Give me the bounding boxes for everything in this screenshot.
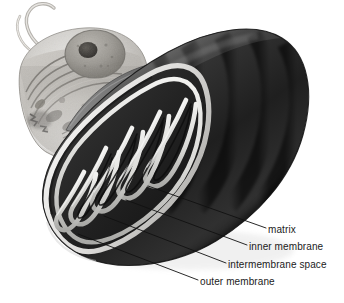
label-intermembrane-space: intermembrane space <box>228 259 327 270</box>
label-matrix: matrix <box>268 224 296 235</box>
label-outer-membrane: outer membrane <box>200 276 275 287</box>
label-inner-membrane: inner membrane <box>249 241 323 252</box>
mitochondrion-figure <box>0 0 344 303</box>
